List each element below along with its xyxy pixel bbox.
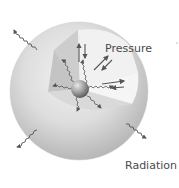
radiation-label: Radiation	[125, 159, 177, 172]
speck	[176, 42, 177, 43]
core-ball	[71, 80, 89, 98]
pressure-label: Pressure	[105, 42, 152, 55]
